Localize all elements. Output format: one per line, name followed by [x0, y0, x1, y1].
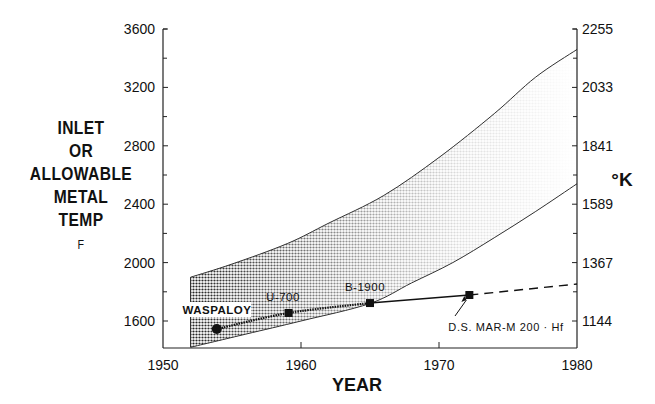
label-u700: U-700 — [266, 291, 300, 303]
x-axis-title: YEAR — [332, 375, 382, 395]
series-projection-dashed — [469, 284, 577, 295]
y-tick-label-left: 2000 — [124, 255, 155, 271]
y-tick-label-left: 2800 — [124, 138, 155, 154]
marker-square — [366, 299, 374, 307]
y-tick-label-right: 2255 — [582, 21, 613, 37]
y-tick-label-right: 2033 — [582, 79, 613, 95]
marker-circle — [212, 324, 222, 334]
y-axis-right-title: °K — [611, 169, 633, 190]
x-tick-label: 1980 — [561, 357, 592, 373]
label-mar-m-200-hf: D.S. MAR-M 200 · Hf — [448, 321, 564, 333]
x-tick-label: 1960 — [285, 357, 316, 373]
y-tick-label-right: 1367 — [582, 255, 613, 271]
y-tick-label-left: 1600 — [124, 313, 155, 329]
y-tick-label-left: 2400 — [124, 196, 155, 212]
y-tick-label-right: 1144 — [582, 313, 612, 329]
marker-square — [465, 291, 473, 299]
y-tick-label-right: 1841 — [582, 138, 613, 154]
annotation-arrow — [455, 300, 466, 316]
y-tick-label-left: 3200 — [124, 79, 155, 95]
chart: 1600200024002800320036001144136715891841… — [0, 0, 655, 404]
label-waspaloy: WASPALOY — [183, 304, 252, 316]
y-tick-label-right: 1589 — [582, 196, 613, 212]
y-tick-label-left: 3600 — [124, 21, 155, 37]
x-tick-label: 1970 — [423, 357, 454, 373]
marker-square — [285, 309, 293, 317]
x-tick-label: 1950 — [147, 357, 178, 373]
label-b1900: B-1900 — [345, 281, 385, 293]
